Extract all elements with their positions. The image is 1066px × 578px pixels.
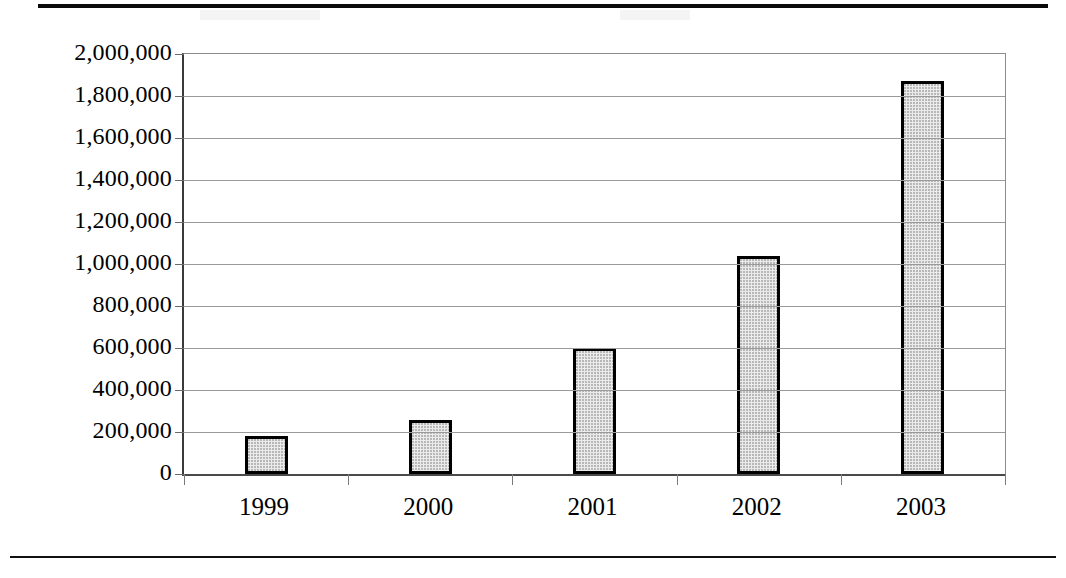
- y-axis-tick: [175, 264, 184, 265]
- x-axis-label-2001: 2001: [510, 492, 674, 522]
- x-axis-label-2002: 2002: [675, 492, 839, 522]
- y-axis-tick-label: 1,400,000: [12, 166, 172, 190]
- y-axis-tick: [175, 432, 184, 433]
- y-axis-tick: [175, 96, 184, 97]
- y-axis-labels: 2,000,0001,800,0001,600,0001,400,0001,20…: [10, 53, 172, 473]
- gridline: [184, 390, 1005, 391]
- bar-chart: 2,000,0001,800,0001,600,0001,400,0001,20…: [0, 0, 1066, 578]
- y-axis-tick: [175, 306, 184, 307]
- gridline: [184, 180, 1005, 181]
- x-axis-tick: [512, 474, 513, 485]
- bar-2003: [901, 81, 944, 474]
- gridline: [184, 348, 1005, 349]
- gridline: [184, 264, 1005, 265]
- y-axis-tick-label: 1,000,000: [12, 250, 172, 274]
- bar-1999: [245, 436, 288, 474]
- x-axis-tick: [348, 474, 349, 485]
- gridline: [184, 138, 1005, 139]
- y-axis-tick-label: 1,600,000: [12, 124, 172, 148]
- y-axis-tick-label: 600,000: [12, 334, 172, 358]
- x-axis-labels: 19992000200120022003: [182, 492, 1003, 532]
- x-axis-label-2003: 2003: [839, 492, 1003, 522]
- bar-2000: [409, 420, 452, 474]
- x-axis-tick: [841, 474, 842, 485]
- y-axis-tick: [175, 222, 184, 223]
- y-axis-tick: [175, 474, 184, 475]
- y-axis-tick-label: 400,000: [12, 376, 172, 400]
- plot-area: [182, 53, 1006, 476]
- y-axis-tick-label: 1,800,000: [12, 82, 172, 106]
- y-axis-tick: [175, 180, 184, 181]
- y-axis-tick-label: 0: [12, 460, 172, 484]
- x-axis-label-2000: 2000: [346, 492, 510, 522]
- y-axis-tick-label: 2,000,000: [12, 40, 172, 64]
- gridline: [184, 96, 1005, 97]
- y-axis-tick: [175, 390, 184, 391]
- x-axis-label-1999: 1999: [182, 492, 346, 522]
- gridline: [184, 222, 1005, 223]
- bar-2002: [737, 256, 780, 474]
- bar-2001: [573, 348, 616, 474]
- y-axis-tick: [175, 138, 184, 139]
- x-axis-tick: [1005, 474, 1006, 485]
- page-rule-bottom: [10, 556, 1056, 558]
- x-axis-tick: [677, 474, 678, 485]
- y-axis-tick: [175, 54, 184, 55]
- y-axis-tick-label: 800,000: [12, 292, 172, 316]
- gridline: [184, 432, 1005, 433]
- y-axis-tick: [175, 348, 184, 349]
- y-axis-tick-label: 1,200,000: [12, 208, 172, 232]
- x-axis-tick: [184, 474, 185, 485]
- gridline: [184, 306, 1005, 307]
- y-axis-tick-label: 200,000: [12, 418, 172, 442]
